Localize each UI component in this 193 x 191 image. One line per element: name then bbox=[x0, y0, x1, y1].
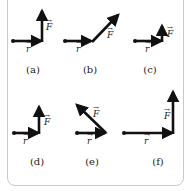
panel-b: r → F → bbox=[63, 15, 118, 54]
caption-e: (e) bbox=[85, 156, 99, 167]
svg-text:→: → bbox=[145, 39, 151, 47]
svg-text:→: → bbox=[76, 39, 82, 47]
caption-b: (b) bbox=[83, 64, 97, 75]
svg-text:→: → bbox=[144, 131, 150, 139]
svg-text:→: → bbox=[87, 131, 93, 139]
f-vector-arrow bbox=[77, 105, 106, 133]
svg-text:→: → bbox=[23, 131, 29, 139]
caption-c: (c) bbox=[143, 64, 156, 75]
svg-text:→: → bbox=[44, 112, 50, 120]
caption-a: (a) bbox=[26, 64, 40, 75]
svg-text:→: → bbox=[167, 24, 173, 32]
panel-d: r → F → bbox=[12, 107, 51, 146]
svg-text:→: → bbox=[26, 39, 32, 47]
svg-text:→: → bbox=[107, 25, 113, 33]
panel-c: r → F → bbox=[133, 24, 174, 54]
f-vector-arrow bbox=[92, 15, 118, 42]
panel-a: r → F → bbox=[11, 11, 53, 54]
caption-d: (d) bbox=[30, 156, 44, 167]
panel-f: r → F → bbox=[122, 92, 173, 146]
svg-text:→: → bbox=[46, 17, 52, 25]
caption-f: (f) bbox=[152, 156, 164, 167]
svg-text:→: → bbox=[93, 104, 99, 112]
panel-e: r → F → bbox=[75, 104, 106, 146]
svg-text:→: → bbox=[164, 106, 170, 114]
